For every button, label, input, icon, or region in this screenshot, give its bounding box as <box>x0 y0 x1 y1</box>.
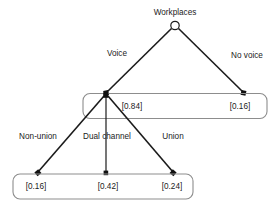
node-marker-no-voice <box>241 90 247 96</box>
tree-diagram-canvas: Workplaces Voice No voice [0.84] [0.16] … <box>0 0 280 214</box>
root-label: Workplaces <box>154 8 197 17</box>
value-dual-channel: [0.42] <box>98 182 119 191</box>
node-marker-level1-apex <box>103 93 108 98</box>
edge-voice-line <box>107 29 172 93</box>
value-union: [0.24] <box>162 182 183 191</box>
edge-label-union: Union <box>162 132 184 141</box>
root-node-circle <box>171 21 179 29</box>
value-no-voice: [0.16] <box>230 102 251 111</box>
edge-label-voice: Voice <box>107 49 127 58</box>
edge-label-non-union: Non-union <box>19 132 57 141</box>
value-non-union: [0.16] <box>26 182 47 191</box>
edge-no-voice-line <box>179 29 244 93</box>
edge-group-level1 <box>107 29 243 93</box>
edge-label-no-voice: No voice <box>231 51 263 60</box>
edge-label-dual-channel: Dual channel <box>83 132 131 141</box>
tree-diagram: Workplaces Voice No voice [0.84] [0.16] … <box>0 0 280 214</box>
value-voice: [0.84] <box>122 102 143 111</box>
